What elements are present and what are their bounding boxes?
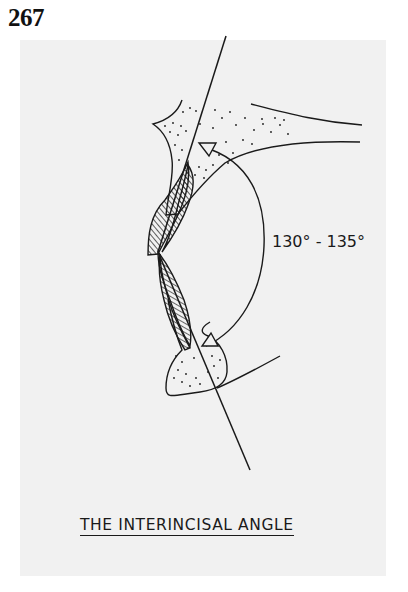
- upper-incisor: [148, 162, 193, 255]
- figure-caption: THE INTERINCISAL ANGLE: [80, 516, 294, 536]
- upper-stipple-dots: [164, 107, 289, 179]
- lower-incisor: [158, 252, 191, 350]
- angle-range-label: 130° - 135°: [272, 232, 365, 251]
- interincisal-angle-diagram: [0, 0, 408, 592]
- angle-arc: [203, 147, 264, 346]
- upper-arrowhead: [199, 143, 216, 156]
- lower-incisor-axis-line: [158, 252, 250, 470]
